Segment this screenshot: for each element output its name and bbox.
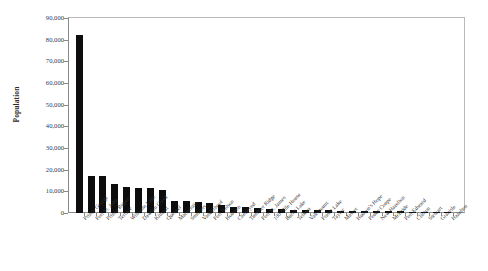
y-tick-label: 90,000 — [20, 14, 64, 21]
y-tick-label: 50,000 — [20, 101, 64, 108]
y-tick-mark — [64, 126, 68, 127]
y-tick-mark — [64, 40, 68, 41]
y-tick-mark — [64, 148, 68, 149]
y-tick-label: 30,000 — [20, 144, 64, 151]
bars-layer — [69, 18, 464, 213]
y-tick-label: 10,000 — [20, 187, 64, 194]
y-tick-mark — [64, 105, 68, 106]
y-tick-mark — [64, 191, 68, 192]
y-tick-label: 80,000 — [20, 36, 64, 43]
y-tick-label: 40,000 — [20, 122, 64, 129]
y-tick-mark — [64, 213, 68, 214]
y-tick-mark — [64, 61, 68, 62]
y-tick-label: 20,000 — [20, 166, 64, 173]
y-tick-mark — [64, 170, 68, 171]
bar — [76, 35, 83, 213]
y-tick-label: 70,000 — [20, 57, 64, 64]
y-tick-label: 60,000 — [20, 79, 64, 86]
y-tick-label: 0 — [20, 209, 64, 216]
population-bar-chart: Population 010,00020,00030,00040,00050,0… — [0, 0, 488, 271]
y-tick-mark — [64, 18, 68, 19]
y-tick-mark — [64, 83, 68, 84]
